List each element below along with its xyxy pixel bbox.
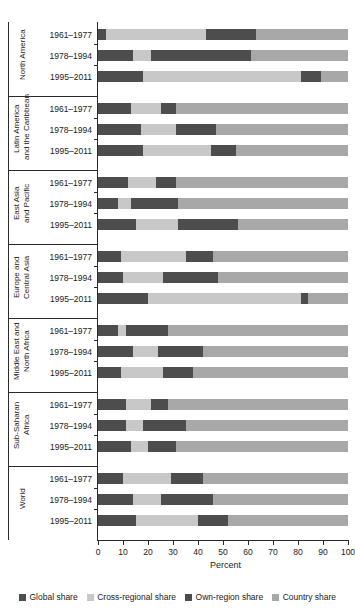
bar-segment: [98, 219, 136, 230]
bar-row: [98, 198, 348, 209]
bar-segment: [168, 325, 348, 336]
bar-segment: [126, 420, 144, 431]
period-label: 1978–1994: [49, 421, 92, 431]
legend-item[interactable]: Country share: [272, 592, 336, 602]
bar-segment: [131, 441, 149, 452]
bar-segment: [203, 473, 348, 484]
bar-row: [98, 325, 348, 336]
period-label: 1961–1977: [49, 30, 92, 40]
x-tick-label: 100: [341, 547, 355, 557]
legend-label: Global share: [29, 592, 77, 602]
bar-segment: [161, 494, 214, 505]
bar-segment: [193, 367, 348, 378]
legend-label: Cross-regional share: [97, 592, 176, 602]
bar-segment: [133, 346, 158, 357]
group-separator: [8, 170, 98, 171]
bar-segment: [228, 515, 348, 526]
legend-item[interactable]: Cross-regional share: [87, 592, 176, 602]
x-tick-label: 20: [143, 547, 152, 557]
region-name-label: Middle East and North Africa: [12, 320, 36, 382]
x-tick-label: 30: [168, 547, 177, 557]
label-column-rule: [8, 244, 9, 318]
bar-segment: [118, 198, 131, 209]
period-label: 1978–1994: [49, 495, 92, 505]
legend-label: Own-region share: [196, 592, 264, 602]
x-tick-label: 40: [193, 547, 202, 557]
bar-segment: [321, 71, 349, 82]
label-column-rule: [8, 22, 9, 96]
region-name-label: Sub-Saharan Africa: [12, 394, 36, 456]
period-label: 1995–2011: [50, 146, 92, 156]
label-column-rule: [8, 318, 9, 392]
period-label: 1961–1977: [49, 474, 92, 484]
region-name-label: Latin America and the Caribbean: [12, 98, 36, 160]
bar-segment: [161, 103, 176, 114]
bar-segment: [216, 124, 349, 135]
bar-row: [98, 494, 348, 505]
bar-segment: [178, 219, 238, 230]
bar-row: [98, 124, 348, 135]
bar-segment: [98, 251, 121, 262]
bar-segment: [176, 103, 349, 114]
bar-segment: [186, 251, 214, 262]
bar-segment: [176, 124, 216, 135]
label-column-rule: [8, 170, 9, 244]
bar-segment: [98, 293, 148, 304]
bar-row: [98, 251, 348, 262]
period-label: 1995–2011: [50, 294, 92, 304]
bar-segment: [206, 29, 256, 40]
bar-segment: [133, 50, 151, 61]
region-name-label: North America: [18, 24, 32, 86]
bar-segment: [156, 177, 176, 188]
bar-segment: [176, 441, 349, 452]
bar-segment: [236, 145, 349, 156]
bar-segment: [131, 198, 179, 209]
legend-item[interactable]: Global share: [19, 592, 78, 602]
bar-segment: [98, 71, 143, 82]
bar-segment: [143, 420, 186, 431]
bar-segment: [106, 29, 206, 40]
bar-segment: [168, 399, 348, 410]
x-tick: [98, 540, 99, 545]
legend-swatch-icon: [87, 594, 94, 601]
bar-row: [98, 293, 348, 304]
bar-row: [98, 346, 348, 357]
bar-segment: [203, 346, 348, 357]
bar-segment: [178, 198, 348, 209]
bar-row: [98, 473, 348, 484]
period-label: 1978–1994: [49, 51, 92, 61]
bar-segment: [98, 29, 106, 40]
bar-segment: [176, 177, 349, 188]
bar-segment: [131, 103, 161, 114]
x-tick: [198, 540, 199, 545]
bar-row: [98, 515, 348, 526]
bar-segment: [213, 494, 348, 505]
bar-row: [98, 441, 348, 452]
bar-segment: [198, 515, 228, 526]
bar-segment: [301, 293, 309, 304]
bar-segment: [218, 272, 348, 283]
x-tick: [323, 540, 324, 545]
bar-segment: [136, 515, 199, 526]
x-tick: [248, 540, 249, 545]
bar-row: [98, 420, 348, 431]
bar-segment: [213, 251, 348, 262]
bar-segment: [171, 473, 204, 484]
legend-swatch-icon: [272, 594, 279, 601]
label-column-rule: [8, 392, 9, 466]
bar-segment: [158, 346, 203, 357]
period-label: 1961–1977: [49, 178, 92, 188]
bar-row: [98, 219, 348, 230]
bar-segment: [148, 293, 301, 304]
bar-segment: [98, 145, 143, 156]
x-tick-label: 10: [118, 547, 127, 557]
label-column-rule: [8, 96, 9, 170]
bar-segment: [98, 124, 141, 135]
chart-figure: 1961–19771978–19941995–2011North America…: [0, 0, 355, 616]
legend-item[interactable]: Own-region share: [185, 592, 263, 602]
bar-row: [98, 177, 348, 188]
group-separator: [8, 96, 98, 97]
bar-segment: [238, 219, 348, 230]
bar-segment: [126, 325, 169, 336]
x-tick: [123, 540, 124, 545]
